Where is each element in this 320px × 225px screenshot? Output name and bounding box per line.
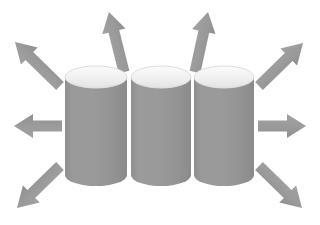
scene-svg <box>0 0 320 225</box>
illustration-canvas: Three cylinders with eight radiating arr… <box>0 0 320 225</box>
cylinder-left <box>65 66 127 186</box>
cylinder-group <box>65 66 254 186</box>
cylinder-center-top <box>131 66 191 88</box>
cylinder-center <box>131 66 191 186</box>
cylinder-right <box>194 66 254 186</box>
cylinder-left-top <box>65 66 127 88</box>
cylinder-right-top <box>194 66 254 88</box>
